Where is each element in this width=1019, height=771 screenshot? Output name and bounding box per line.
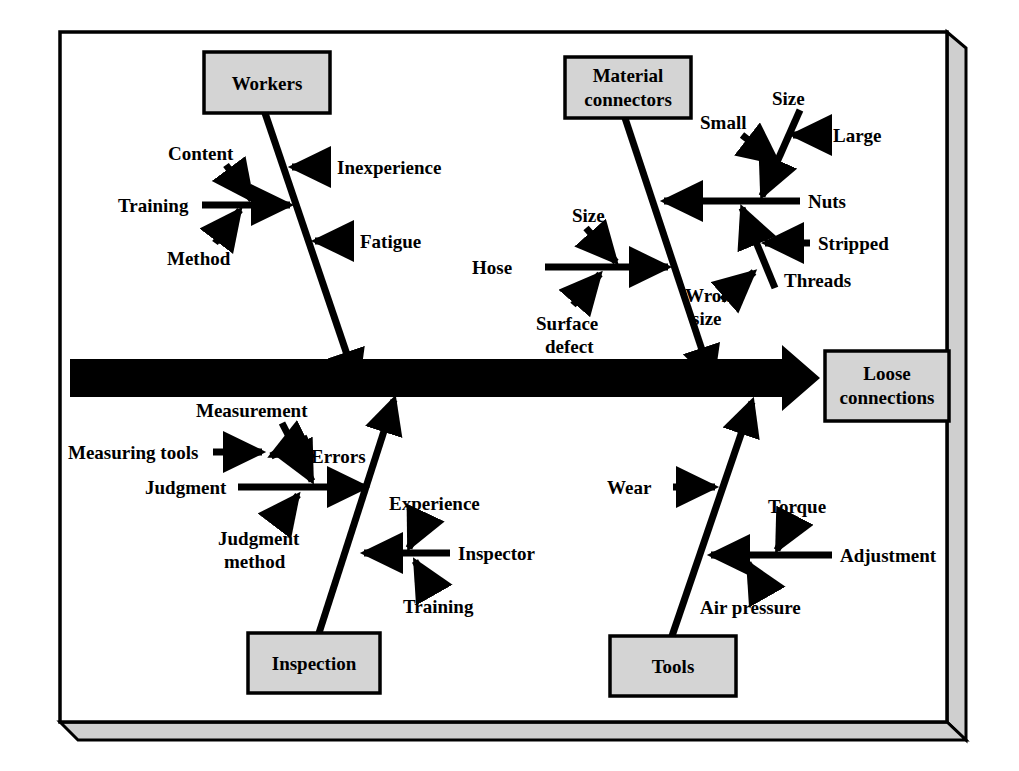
label-hose: Hose (472, 257, 512, 278)
label-training-inspection: Training (403, 596, 474, 617)
label-content: Content (168, 143, 234, 164)
effect-box[interactable]: Loose connections (825, 351, 949, 421)
label-inspector: Inspector (458, 543, 536, 564)
label-wrong-size-line2: size (692, 308, 722, 329)
fishbone-diagram-canvas: Loose connections Workers Inexperience F… (0, 0, 1019, 771)
label-training-workers: Training (118, 195, 189, 216)
workers-box-label: Workers (232, 73, 303, 94)
label-inexperience: Inexperience (337, 157, 441, 178)
label-size-nuts: Size (772, 88, 805, 109)
label-measuring-tools: Measuring tools (68, 442, 198, 463)
label-experience: Experience (389, 493, 480, 514)
label-surface-defect-line2: defect (545, 336, 594, 357)
label-small: Small (700, 112, 746, 133)
label-wear: Wear (607, 477, 652, 498)
label-method: Method (167, 248, 231, 269)
fishbone-svg: Loose connections Workers Inexperience F… (0, 0, 1019, 771)
label-judgment-method-line1: Judgment (218, 528, 300, 549)
label-torque: Torque (768, 496, 826, 517)
label-judgment: Judgment (145, 477, 227, 498)
label-fatigue: Fatigue (360, 231, 421, 252)
effect-box-label-line2: connections (840, 387, 935, 408)
label-large: Large (833, 125, 882, 146)
frame-bevel-bottom (60, 722, 966, 740)
material-box-label-line2: connectors (584, 89, 672, 110)
label-stripped: Stripped (818, 233, 889, 254)
effect-box-label-line1: Loose (863, 363, 911, 384)
label-measurement: Measurement (196, 400, 308, 421)
label-air-pressure: Air pressure (700, 597, 801, 618)
label-errors: Errors (311, 446, 366, 467)
label-wrong-size-line1: Wrong (685, 285, 742, 306)
label-surface-defect-line1: Surface (536, 313, 598, 334)
effect-box-rect (825, 351, 949, 421)
label-nuts: Nuts (808, 191, 846, 212)
inspection-box-label: Inspection (272, 653, 357, 674)
label-adjustment: Adjustment (840, 545, 937, 566)
label-threads: Threads (784, 270, 851, 291)
material-box-label-line1: Material (593, 65, 664, 86)
label-size-hose: Size (572, 205, 605, 226)
tools-box-label: Tools (652, 656, 695, 677)
label-judgment-method-line2: method (224, 551, 286, 572)
